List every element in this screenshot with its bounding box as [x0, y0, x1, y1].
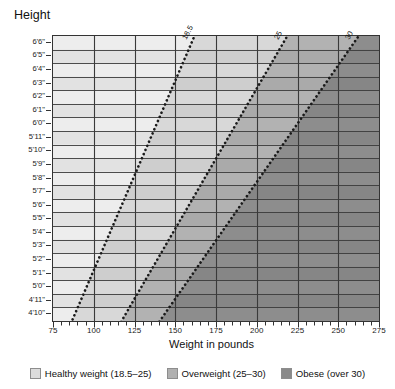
- legend-label: Healthy weight (18.5–25): [45, 368, 152, 379]
- legend: Healthy weight (18.5–25)Overweight (25–3…: [0, 362, 395, 384]
- x-axis-ticks: [0, 322, 395, 332]
- y-axis-tick: [46, 273, 51, 274]
- y-axis-tick: [46, 137, 51, 138]
- y-axis-tick-label: 5'5": [32, 214, 45, 222]
- y-axis-tick-label: 5'7": [32, 187, 45, 195]
- y-axis-tick: [46, 96, 51, 97]
- legend-swatch: [281, 368, 292, 379]
- y-axis-tick-label: 5'9": [32, 160, 45, 168]
- plot-svg: [53, 36, 379, 321]
- y-axis-tick: [46, 313, 51, 314]
- y-axis-tick-label: 5'4": [32, 228, 45, 236]
- y-axis-tick: [46, 164, 51, 165]
- y-axis-tick: [46, 286, 51, 287]
- y-axis-tick: [46, 232, 51, 233]
- bmi-chart-figure: Height 6'6"6'5"6'4"6'3"6'2"6'1"6'0"5'11"…: [0, 0, 395, 389]
- y-axis-tick-label: 6'3": [32, 79, 45, 87]
- y-axis-tick-label: 6'6": [32, 38, 45, 46]
- y-axis-tick-label: 6'2": [32, 92, 45, 100]
- y-axis-tick: [46, 218, 51, 219]
- y-axis-tick: [46, 123, 51, 124]
- y-axis-tick-label: 5'8": [32, 174, 45, 182]
- y-axis-tick: [46, 110, 51, 111]
- legend-item: Obese (over 30): [281, 368, 365, 379]
- plot-area: [52, 35, 380, 322]
- y-axis-tick-label: 5'10": [28, 146, 45, 154]
- y-axis-tick: [46, 191, 51, 192]
- y-axis-tick-label: 6'0": [32, 119, 45, 127]
- y-axis-tick: [46, 245, 51, 246]
- y-axis-tick-label: 6'4": [32, 65, 45, 73]
- y-axis-tick-label: 4'10": [28, 309, 45, 317]
- y-axis-tick-label: 5'0": [32, 282, 45, 290]
- legend-swatch: [30, 368, 41, 379]
- y-axis-labels: 6'6"6'5"6'4"6'3"6'2"6'1"6'0"5'11"5'10"5'…: [0, 35, 52, 322]
- legend-item: Overweight (25–30): [167, 368, 266, 379]
- legend-item: Healthy weight (18.5–25): [30, 368, 152, 379]
- legend-label: Overweight (25–30): [182, 368, 266, 379]
- y-axis-tick-label: 6'5": [32, 51, 45, 59]
- legend-label: Obese (over 30): [296, 368, 365, 379]
- y-axis-tick: [46, 83, 51, 84]
- y-axis-tick-label: 5'1": [32, 269, 45, 277]
- y-axis-tick: [46, 178, 51, 179]
- y-axis-tick: [46, 55, 51, 56]
- y-axis-title: Height: [14, 8, 50, 22]
- legend-swatch: [167, 368, 178, 379]
- y-axis-tick-label: 5'6": [32, 201, 45, 209]
- y-axis-tick-label: 5'11": [29, 133, 45, 141]
- x-axis-title: Weight in pounds: [0, 338, 395, 350]
- y-axis-tick: [46, 69, 51, 70]
- y-axis-tick-label: 5'3": [32, 241, 45, 249]
- x-axis-title-text: Weight in pounds: [169, 338, 254, 350]
- y-axis-tick: [46, 259, 51, 260]
- y-axis-tick: [46, 42, 51, 43]
- y-axis-tick-label: 4'11": [29, 296, 45, 304]
- y-axis-tick: [46, 205, 51, 206]
- y-axis-tick-label: 5'2": [32, 255, 45, 263]
- y-axis-tick-label: 6'1": [32, 106, 45, 114]
- y-axis-tick: [46, 150, 51, 151]
- y-axis-tick: [46, 300, 51, 301]
